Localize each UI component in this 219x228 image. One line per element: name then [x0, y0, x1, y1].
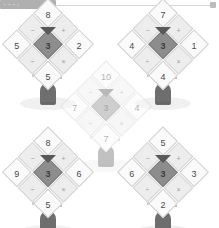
top-progress-bar[interactable]: • • • |: [0, 0, 219, 12]
windmill-cap-icon: [40, 155, 56, 163]
windmill-rotor[interactable]: 5 + 3 × 2 ÷ 6 − 3: [116, 126, 209, 219]
windmill-cap-icon: [40, 27, 56, 35]
windmill-cap-icon: [98, 89, 114, 97]
tower-stripe: [41, 102, 55, 104]
windmill-cap-icon: [155, 155, 171, 163]
puzzle-board: 8 + 2 × 5 ÷ 5 − 3 2 5 7 + 1 × 4 ÷ 4 − 3: [0, 12, 219, 228]
tower-stripe: [99, 164, 113, 166]
windmill-rotor[interactable]: 8 + 6 × 5 ÷ 9 − 3: [1, 126, 94, 219]
windmill-cap-icon: [155, 27, 171, 35]
tower-stripe: [156, 102, 170, 104]
progress-label: • • • |: [4, 1, 20, 8]
windmill-bottom-left[interactable]: 8 + 6 × 5 ÷ 9 − 3 6 5: [2, 140, 94, 228]
windmill-bottom-right[interactable]: 5 + 3 × 2 ÷ 6 − 3 3 2: [117, 140, 209, 228]
slider-handle[interactable]: [210, 2, 216, 8]
